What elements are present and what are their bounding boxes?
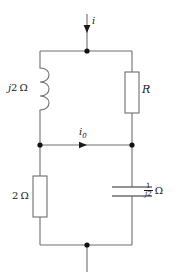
resistor-r-label: R xyxy=(142,84,150,95)
resistor-2-ohm-label: 2 Ω xyxy=(12,191,29,201)
capacitor-label: 1 j2 Ω xyxy=(144,183,163,199)
source-lead-top xyxy=(84,14,91,51)
node-dot-top xyxy=(84,48,89,53)
inductor-value: 2 xyxy=(11,82,17,93)
resistor-r-symbol xyxy=(125,72,139,113)
circuit-diagram: i i0 j2 Ω R 2 Ω 1 j2 Ω xyxy=(0,0,177,279)
inductor-j2-ohm-symbol xyxy=(40,68,49,110)
node-dot-mid-left xyxy=(37,142,42,147)
node-dot-mid-right xyxy=(129,142,134,147)
resistor-2-ohm-ohm-symbol: Ω xyxy=(20,190,28,201)
branch-current-subscript: 0 xyxy=(82,132,86,140)
resistor-2-ohm-symbol xyxy=(33,176,47,217)
capacitor-ohm-symbol: Ω xyxy=(155,186,163,196)
source-current-label: i xyxy=(92,16,95,26)
node-dot-bottom xyxy=(84,242,89,247)
capacitor-fraction: 1 j2 xyxy=(144,183,153,199)
source-current-arrow-icon xyxy=(84,25,91,33)
branch-current-arrow-icon xyxy=(79,142,87,149)
inductor-label: j2 Ω xyxy=(8,83,28,93)
middle-wire xyxy=(40,142,132,149)
branch-current-label: i0 xyxy=(79,127,87,140)
circuit-schematic-canvas xyxy=(0,0,177,279)
inductor-ohm-symbol: Ω xyxy=(19,82,27,93)
resistor-2-ohm-value: 2 xyxy=(12,190,18,201)
capacitor-denominator: j2 xyxy=(144,191,153,198)
